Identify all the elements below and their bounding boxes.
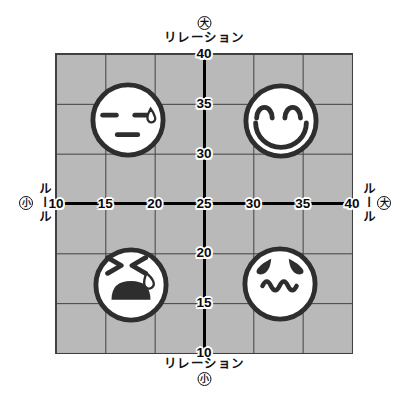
circled-small-label: 小 — [197, 372, 211, 386]
y-axis-title-bottom: リレーション — [164, 357, 245, 371]
circled-small-label: 小 — [19, 196, 33, 210]
x-axis-left-cap: 小 ルール — [19, 182, 50, 224]
x-axis-right-cap: ルール 大 — [360, 182, 391, 224]
x-axis-title-right: ルール — [360, 182, 374, 224]
x-tick-labels: 101520303540 — [56, 54, 352, 353]
y-axis-title-top: リレーション — [164, 31, 245, 45]
y-axis-bottom-cap: リレーション 小 — [164, 357, 245, 386]
x-axis-title-left: ルール — [36, 182, 50, 224]
quadrant-chart-canvas: 大 リレーション — [0, 0, 401, 404]
circled-large-label: 大 — [377, 196, 391, 210]
x-tick-label: 40 — [344, 197, 359, 211]
y-axis-top-cap: 大 リレーション — [164, 16, 245, 45]
circled-large-label: 大 — [197, 16, 211, 30]
x-tick-label: 35 — [295, 197, 310, 211]
x-tick-label: 20 — [147, 197, 162, 211]
plot-area: 40353025201510 101520303540 — [55, 53, 353, 354]
x-tick-label: 15 — [98, 197, 113, 211]
x-tick-label: 10 — [48, 197, 63, 211]
x-tick-label: 30 — [246, 197, 261, 211]
